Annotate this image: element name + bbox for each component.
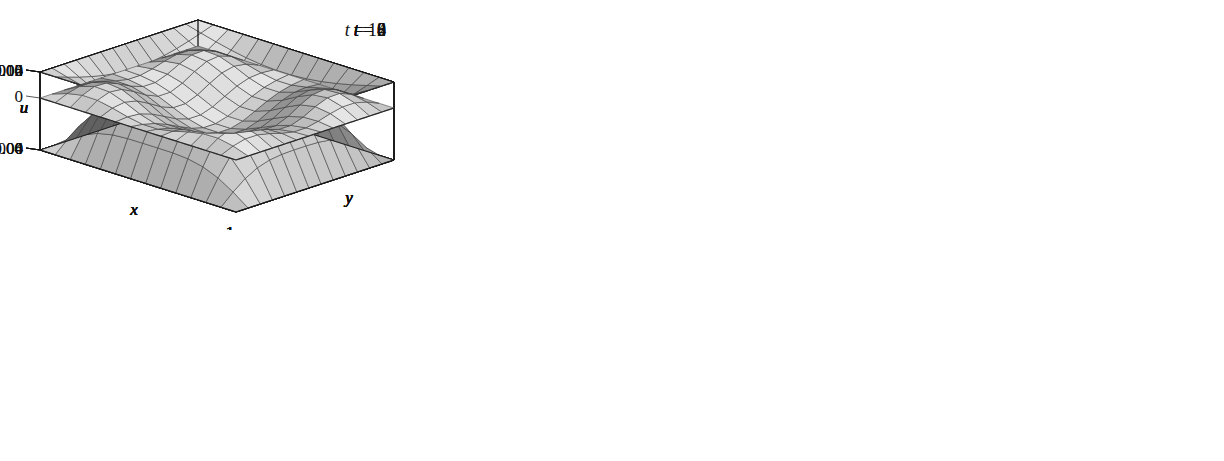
u-axis-tick-0: 0.002 <box>0 61 23 80</box>
u-axis-tick-2: -0.004 <box>0 139 23 158</box>
panel-time-label: t=10 <box>345 20 386 40</box>
surface-panel-t10: 0.0020-0.004ux1y1t=10 <box>0 0 408 230</box>
surface-plot-figure: 0.060ux1y1t=00-0.06ux1y1t=20.040ux1y1t=4… <box>0 0 1224 461</box>
x-axis-tick: 1 <box>226 223 235 230</box>
u-axis-label: u <box>20 98 29 117</box>
time-value: 10 <box>368 20 386 40</box>
y-axis-label: y <box>343 188 353 207</box>
time-equals: = <box>354 20 364 40</box>
time-variable: t <box>345 20 351 40</box>
x-axis-label: x <box>129 200 138 219</box>
